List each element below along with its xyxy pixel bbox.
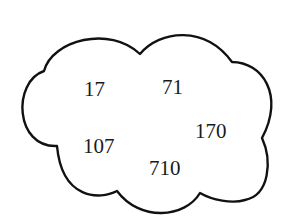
- number-170: 170: [195, 119, 227, 143]
- cloud-diagram: 17 71 107 170 710: [0, 0, 289, 224]
- number-71: 71: [162, 75, 183, 99]
- number-107: 107: [83, 134, 115, 158]
- number-710: 710: [149, 156, 181, 180]
- number-17: 17: [84, 77, 105, 101]
- cloud-outline: [22, 35, 271, 213]
